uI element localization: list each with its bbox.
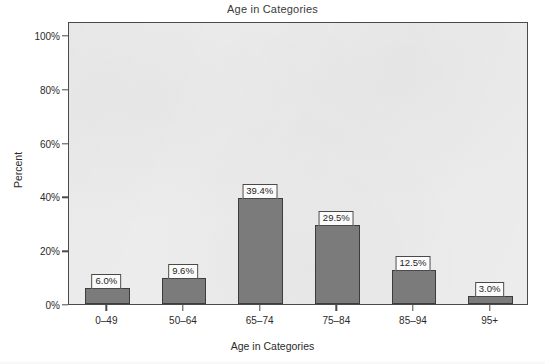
bar[interactable] bbox=[468, 296, 512, 304]
bar[interactable] bbox=[392, 270, 436, 304]
y-tick-label: 40% bbox=[20, 192, 60, 203]
y-axis-title: Percent bbox=[12, 130, 24, 210]
x-tick-mark bbox=[412, 305, 413, 311]
bar-slot bbox=[162, 23, 206, 304]
x-tick-label: 65–74 bbox=[246, 315, 274, 326]
y-tick-label: 20% bbox=[20, 246, 60, 257]
x-tick-label: 85–94 bbox=[399, 315, 427, 326]
bar[interactable] bbox=[85, 288, 129, 304]
x-tick-mark bbox=[336, 305, 337, 311]
scan-edge-artifact bbox=[0, 360, 545, 364]
bar-value-label: 29.5% bbox=[319, 211, 354, 226]
y-tick-label: 80% bbox=[20, 84, 60, 95]
x-tick-mark bbox=[182, 305, 183, 311]
y-tick-label: 100% bbox=[20, 31, 60, 42]
y-tick-label: 60% bbox=[20, 138, 60, 149]
bar-slot bbox=[315, 23, 359, 304]
bar-chart: Age in Categories 0%20%40%60%80%100% Per… bbox=[0, 0, 545, 364]
bar-value-label: 6.0% bbox=[92, 274, 122, 289]
bars-layer bbox=[69, 23, 527, 304]
bar[interactable] bbox=[315, 225, 359, 304]
bar[interactable] bbox=[238, 198, 282, 304]
y-tick-label: 0% bbox=[20, 300, 60, 311]
bar-value-label: 9.6% bbox=[168, 264, 198, 279]
x-tick-label: 0–49 bbox=[95, 315, 117, 326]
x-axis-title: Age in Categories bbox=[0, 340, 545, 352]
bar[interactable] bbox=[162, 278, 206, 304]
x-tick-mark bbox=[489, 305, 490, 311]
x-tick-mark bbox=[259, 305, 260, 311]
bar-slot bbox=[468, 23, 512, 304]
bar-value-label: 3.0% bbox=[475, 282, 505, 297]
x-tick-label: 95+ bbox=[481, 315, 498, 326]
x-tick-mark bbox=[106, 305, 107, 311]
bar-slot bbox=[85, 23, 129, 304]
x-tick-label: 50–64 bbox=[169, 315, 197, 326]
x-tick-label: 75–84 bbox=[322, 315, 350, 326]
bar-value-label: 12.5% bbox=[396, 256, 431, 271]
bar-value-label: 39.4% bbox=[242, 184, 277, 199]
plot-area bbox=[68, 22, 528, 305]
chart-title: Age in Categories bbox=[0, 3, 545, 15]
bar-slot bbox=[238, 23, 282, 304]
